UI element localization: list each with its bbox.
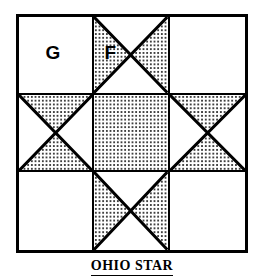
hourglass-vertical-icon bbox=[19, 95, 92, 171]
caption-text: OHIO STAR bbox=[91, 258, 173, 276]
quilt-cell-bottom-center bbox=[94, 172, 169, 250]
hourglass-vertical-icon bbox=[170, 95, 245, 171]
solid-dotted-square-icon bbox=[94, 95, 167, 171]
quilt-cell-center bbox=[94, 95, 169, 173]
quilt-cell-bottom-right bbox=[170, 172, 245, 250]
quilt-cell-top-center: F bbox=[94, 17, 169, 95]
quilt-cell-top-left: G bbox=[19, 17, 94, 95]
quilt-cell-middle-left bbox=[19, 95, 94, 173]
patch-label-g: G bbox=[45, 43, 60, 62]
quilt-cell-middle-right bbox=[170, 95, 245, 173]
ohio-star-figure: G F bbox=[0, 0, 264, 278]
quilt-cell-bottom-left bbox=[19, 172, 94, 250]
patch-label-f: F bbox=[105, 43, 117, 62]
figure-caption: OHIO STAR bbox=[0, 258, 264, 276]
block-grid: G F bbox=[19, 17, 245, 250]
quilt-block-diagram: G F bbox=[16, 14, 248, 253]
quilt-cell-top-right bbox=[170, 17, 245, 95]
hourglass-horizontal-icon bbox=[94, 172, 167, 250]
